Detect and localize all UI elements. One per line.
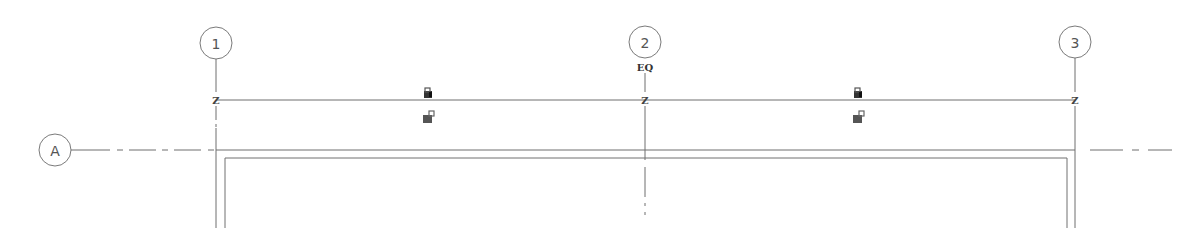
grid-label-a: A bbox=[50, 143, 60, 159]
grid-line-a[interactable]: A bbox=[39, 134, 1172, 166]
lock-icon-left-top[interactable] bbox=[424, 88, 432, 98]
eq-label[interactable]: EQ bbox=[637, 62, 654, 73]
grid-label-1: 1 bbox=[212, 36, 221, 52]
wall-inner-outline[interactable] bbox=[225, 158, 1067, 228]
grid-label-2: 2 bbox=[641, 35, 650, 51]
grid-line-2[interactable]: 2 EQ bbox=[629, 26, 661, 232]
dimension-tick-1[interactable]: Z bbox=[212, 95, 219, 106]
lock-icon-right-bottom[interactable] bbox=[853, 111, 864, 123]
dimension-tick-3[interactable]: Z bbox=[1071, 95, 1078, 106]
grid-line-1[interactable]: 1 bbox=[200, 27, 232, 228]
grid-line-3[interactable]: 3 bbox=[1059, 26, 1091, 228]
dimension-tick-2[interactable]: Z bbox=[641, 95, 648, 106]
dimension-string[interactable]: Z Z Z bbox=[212, 95, 1078, 106]
drawing-canvas: 1 2 EQ 3 A Z Z Z bbox=[0, 0, 1196, 243]
lock-icon-left-bottom[interactable] bbox=[423, 111, 434, 123]
grid-label-3: 3 bbox=[1071, 35, 1080, 51]
lock-icon-right-top[interactable] bbox=[854, 88, 862, 98]
